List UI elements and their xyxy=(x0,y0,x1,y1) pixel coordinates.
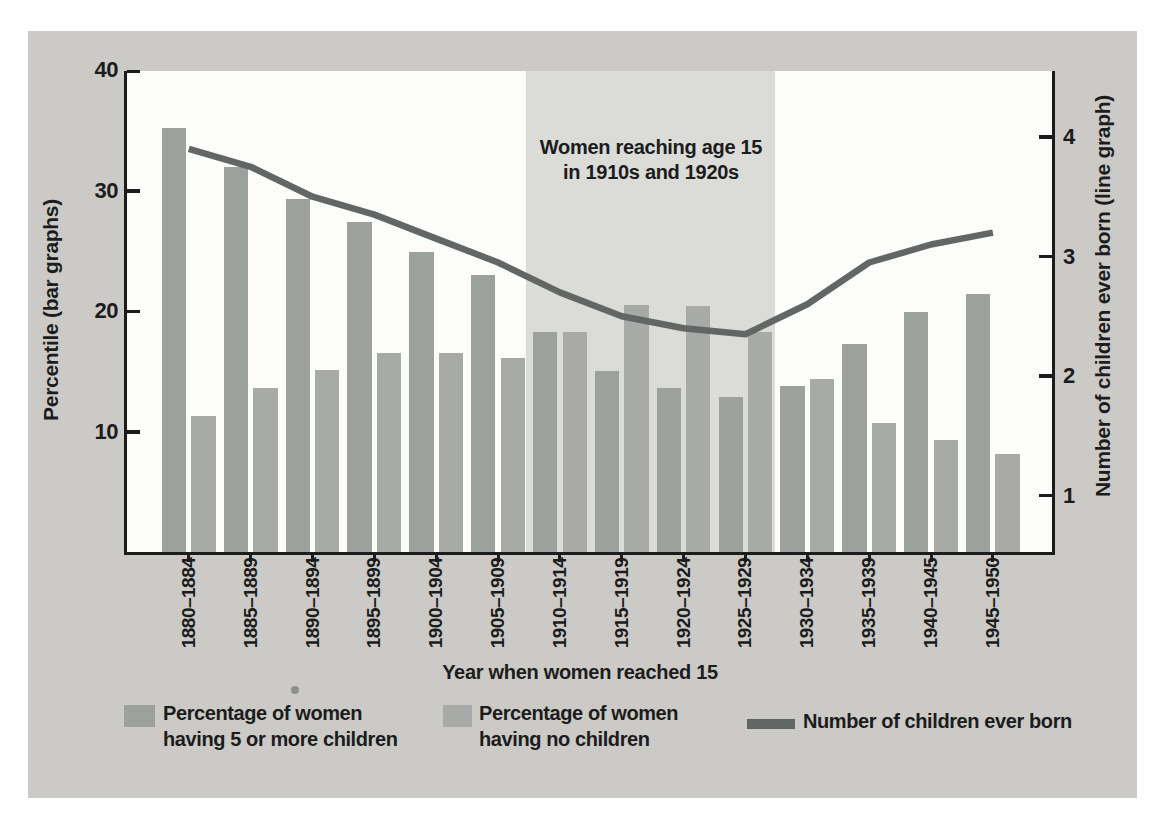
legend-swatch-children-ever-born-line xyxy=(747,719,795,729)
figure-page: Women reaching age 15 in 1910s and 1920s… xyxy=(0,0,1159,815)
left-tick-label-30: 30 xyxy=(70,178,118,204)
legend-label-no-children: Percentage of women having no children xyxy=(479,700,678,752)
legend-label-children-ever-born: Number of children ever born xyxy=(803,708,1072,734)
x-tick-label-1945–1950: 1945–1950 xyxy=(982,553,1004,653)
x-tick-label-1930–1934: 1930–1934 xyxy=(796,553,818,653)
x-axis-line xyxy=(124,552,1055,555)
x-tick-label-1925–1929: 1925–1929 xyxy=(734,553,756,653)
children-ever-born-line xyxy=(189,149,993,334)
left-tick-label-20: 20 xyxy=(70,298,118,324)
x-tick-label-1915–1919: 1915–1919 xyxy=(611,553,633,653)
x-tick-label-1895–1899: 1895–1899 xyxy=(363,553,385,653)
x-axis-title: Year when women reached 15 xyxy=(430,661,730,684)
y-axis-right-line xyxy=(1052,71,1055,555)
x-tick-label-1910–1914: 1910–1914 xyxy=(549,553,571,653)
y-axis-left-line xyxy=(124,71,127,555)
x-tick-label-1880–1884: 1880–1884 xyxy=(178,553,200,653)
x-tick-label-1890–1894: 1890–1894 xyxy=(302,553,324,653)
x-tick-label-1885–1889: 1885–1889 xyxy=(240,553,262,653)
legend-swatch-five-plus-bar xyxy=(124,705,155,727)
legend-swatch-no-children-bar xyxy=(443,705,472,727)
legend-label-five-plus: Percentage of women having 5 or more chi… xyxy=(163,700,398,752)
x-tick-label-1920–1924: 1920–1924 xyxy=(673,553,695,653)
x-tick-label-1900–1904: 1900–1904 xyxy=(425,553,447,653)
y-axis-right-title: Number of children ever born (line graph… xyxy=(1091,117,1117,497)
left-tick-label-10: 10 xyxy=(70,419,118,445)
x-tick-label-1940–1945: 1940–1945 xyxy=(920,553,942,653)
children-ever-born-line-layer xyxy=(127,71,1052,552)
x-tick-label-1935–1939: 1935–1939 xyxy=(858,553,880,653)
print-dot-artifact xyxy=(291,686,299,694)
x-tick-label-1905–1909: 1905–1909 xyxy=(487,553,509,653)
y-axis-left-title: Percentile (bar graphs) xyxy=(39,160,65,460)
left-tick-label-40: 40 xyxy=(70,57,118,83)
